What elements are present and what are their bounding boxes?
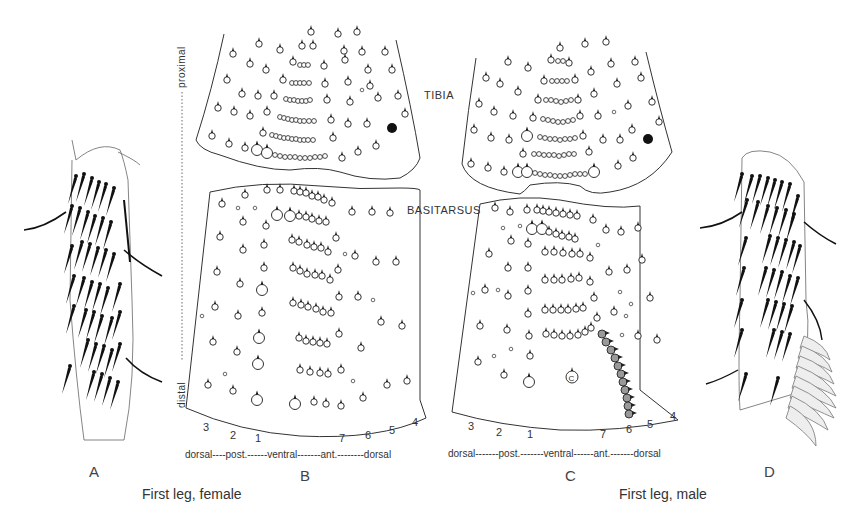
row-number-b-3: 3 <box>203 421 209 433</box>
panel-b-tibia-setae <box>209 25 408 161</box>
orientation-b: dorsal----post.------ventral-------ant.-… <box>185 449 391 460</box>
row-number-c-6: 6 <box>626 423 632 435</box>
row-number-c-1: 1 <box>527 428 533 440</box>
row-number-b-5: 5 <box>389 424 395 436</box>
row-number-c-2: 2 <box>496 426 502 438</box>
row-number-c-3: 3 <box>468 420 474 432</box>
row-number-c-7: 7 <box>600 428 606 440</box>
figure-drawing: C <box>0 0 866 527</box>
row-number-c-5: 5 <box>647 418 653 430</box>
row-number-b-4: 4 <box>412 416 418 428</box>
axis-label-proximal: proximal <box>176 46 187 88</box>
orientation-c: dorsal-------post.-------ventral------an… <box>448 448 661 459</box>
row-number-b-2: 2 <box>230 429 236 441</box>
filled-seta-socket <box>643 134 653 144</box>
row-number-c-4: 4 <box>670 410 676 422</box>
panel-b-basitarsus <box>186 184 426 437</box>
segment-label-basitarsus: BASITARSUS <box>407 204 481 216</box>
panel-c-basitarsus <box>452 198 678 431</box>
panel-c-tibia-setae <box>468 35 662 178</box>
panel-a-leg <box>24 140 162 440</box>
panel-letter-a: A <box>89 463 99 480</box>
panel-letter-d: D <box>764 463 775 480</box>
svg-text:C: C <box>569 374 575 383</box>
panel-c-basitarsus-setae: C <box>471 201 660 388</box>
filled-seta-socket <box>387 123 397 133</box>
row-number-b-1: 1 <box>255 432 261 444</box>
panel-d-leg <box>700 151 836 446</box>
caption-female: First leg, female <box>142 486 242 502</box>
panel-b-basitarsus-setae <box>200 183 410 410</box>
panel-letter-c: C <box>565 467 576 484</box>
row-number-b-7: 7 <box>339 432 345 444</box>
row-number-b-6: 6 <box>365 429 371 441</box>
axis-label-distal: distal <box>176 382 187 408</box>
segment-label-tibia: TIBIA <box>424 89 454 101</box>
panel-c-comb <box>598 330 637 418</box>
caption-male: First leg, male <box>619 486 707 502</box>
panel-letter-b: B <box>300 467 310 484</box>
